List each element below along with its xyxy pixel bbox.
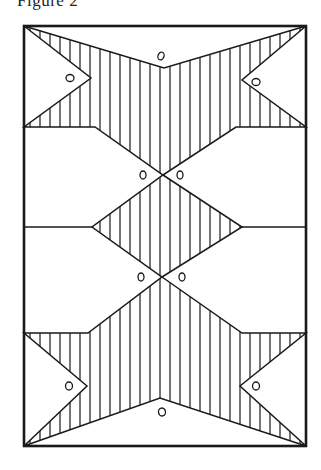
- mark-bottom-center-circle-icon: [158, 407, 166, 416]
- bottom-hatched-band-hatch: [30, 277, 300, 446]
- mark-cross1-right-circle-icon: [177, 171, 183, 179]
- mark-bottom-right-circle-icon: [253, 382, 260, 390]
- mark-cross1-left-circle-icon: [140, 171, 146, 179]
- vertical-hatching: [30, 26, 300, 446]
- mark-cross2-right-circle-icon: [179, 273, 185, 281]
- mark-top-center-circle-icon: [157, 51, 165, 61]
- mark-top-right-circle-icon: [252, 79, 260, 86]
- mark-bottom-left-circle-icon: [66, 382, 73, 390]
- mark-top-left-circle-icon: [66, 75, 74, 82]
- top-hatched-band: [24, 26, 306, 175]
- top-hatched-band-hatch: [30, 26, 300, 175]
- bottom-hatched-band: [24, 277, 306, 446]
- mark-cross2-left-circle-icon: [138, 273, 144, 281]
- tiling-pattern-diagram: [0, 0, 321, 470]
- middle-diamond-hatch: [100, 175, 240, 277]
